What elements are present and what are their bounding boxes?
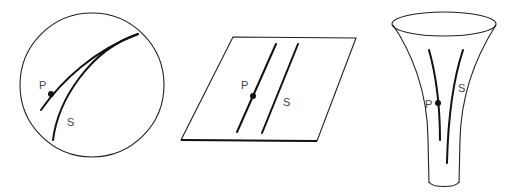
funnel-bottom xyxy=(429,182,459,187)
line-s xyxy=(262,44,298,133)
funnel-rim xyxy=(392,12,496,36)
plane-front-edge xyxy=(181,140,317,141)
line-through-p xyxy=(429,50,440,140)
line-s-label: S xyxy=(458,82,465,94)
geometry-diagram: P S P S P S xyxy=(0,0,519,196)
funnel-panel: P S xyxy=(392,12,496,187)
funnel-left-side xyxy=(393,25,429,183)
sphere-panel: P S xyxy=(20,13,164,157)
point-p-label: P xyxy=(241,79,248,91)
point-p-label: P xyxy=(39,79,46,91)
point-p xyxy=(435,100,441,106)
line-s-label: S xyxy=(67,116,74,128)
line-through-p xyxy=(41,34,138,110)
plane-outline xyxy=(181,37,356,141)
line-s xyxy=(447,50,463,163)
point-p xyxy=(250,93,256,99)
point-p-label: P xyxy=(425,98,432,110)
point-p xyxy=(48,91,54,97)
line-s-label: S xyxy=(283,96,290,108)
plane-panel: P S xyxy=(181,37,356,141)
funnel-right-side xyxy=(459,25,496,183)
line-s xyxy=(53,34,138,140)
